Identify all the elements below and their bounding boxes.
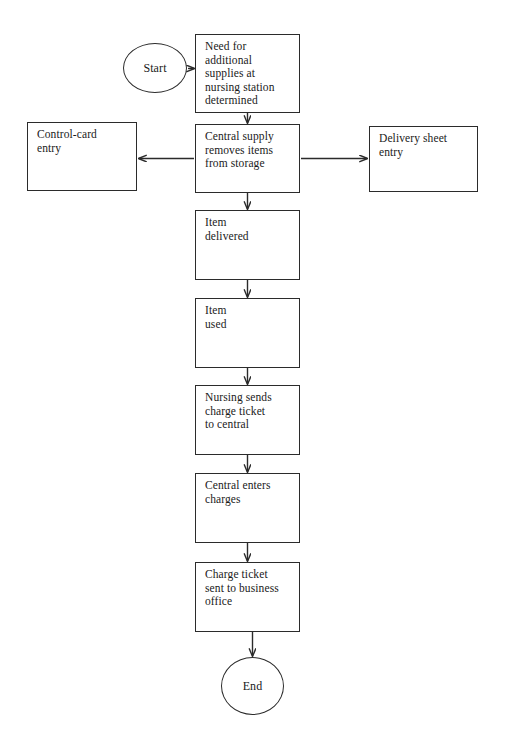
node-charge-ticket-sent-to-business-office-label: Charge ticket sent to business office — [205, 568, 295, 609]
node-need-for-supplies-label: Need for additional supplies at nursing … — [205, 40, 295, 108]
node-delivery-sheet-entry[interactable]: Delivery sheet entry — [369, 126, 478, 192]
node-nursing-sends-charge-ticket-label: Nursing sends charge ticket to central — [205, 391, 295, 432]
node-start[interactable]: Start — [123, 43, 187, 93]
node-central-supply-removes-items-label: Central supply removes items from storag… — [205, 130, 295, 171]
node-nursing-sends-charge-ticket[interactable]: Nursing sends charge ticket to central — [195, 385, 300, 455]
node-item-used-label: Item used — [205, 304, 295, 331]
node-central-enters-charges[interactable]: Central enters charges — [195, 473, 300, 543]
node-charge-ticket-sent-to-business-office[interactable]: Charge ticket sent to business office — [195, 562, 300, 632]
node-item-delivered-label: Item delivered — [205, 216, 295, 243]
node-central-enters-charges-label: Central enters charges — [205, 479, 295, 506]
flowchart-canvas: Start Need for additional supplies at nu… — [0, 0, 508, 744]
node-need-for-supplies[interactable]: Need for additional supplies at nursing … — [195, 34, 300, 113]
node-end[interactable]: End — [221, 657, 284, 715]
node-control-card-entry-label: Control-card entry — [37, 128, 132, 155]
node-control-card-entry[interactable]: Control-card entry — [27, 122, 137, 191]
node-central-supply-removes-items[interactable]: Central supply removes items from storag… — [195, 124, 300, 193]
node-item-used[interactable]: Item used — [195, 298, 300, 368]
node-delivery-sheet-entry-label: Delivery sheet entry — [379, 132, 473, 159]
node-item-delivered[interactable]: Item delivered — [195, 210, 300, 280]
node-start-label: Start — [143, 61, 166, 75]
node-end-label: End — [243, 679, 263, 693]
